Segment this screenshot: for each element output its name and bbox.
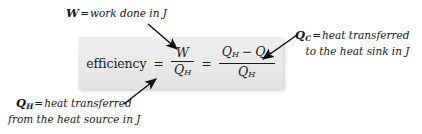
fraction-1-denominator: QH — [171, 62, 194, 80]
annotation-work: W=work done in J — [66, 7, 167, 21]
equation-panel: efficiency = W QH = QH−QC QH — [78, 37, 283, 89]
fraction-2-numerator-second-subscript: C — [266, 50, 272, 59]
fraction-1-denominator-subscript: H — [184, 68, 191, 77]
equation-left-term: efficiency — [86, 56, 146, 71]
annotation-heat-hot-line2: from the heat source in J — [8, 113, 140, 127]
fraction-2-numerator-operator: − — [239, 44, 255, 59]
fraction-2-denominator-subscript: H — [248, 70, 255, 79]
annotation-heat-hot-symbol: QH — [16, 96, 33, 110]
fraction-2-numerator-first-subscript: H — [232, 50, 239, 59]
annotation-work-line1: work done in J — [90, 7, 167, 19]
annotation-heat-cold-symbol: QC — [295, 28, 311, 42]
annotation-heat-hot: QH=heat transferred from the heat source… — [16, 97, 140, 127]
annotation-heat-cold-line2: to the heat sink in J — [295, 45, 410, 59]
fraction-qh-minus-qc-over-qh: QH−QC QH — [219, 45, 275, 82]
annotation-heat-cold-equals: = — [311, 29, 322, 41]
equation-equals-second: = — [199, 56, 213, 71]
fraction-2-numerator-first-symbol: Q — [222, 44, 232, 59]
annotation-heat-cold: QC=heat transferred to the heat sink in … — [295, 29, 410, 59]
equation-equals-first: = — [151, 56, 165, 71]
annotation-heat-hot-line1: heat transferred — [44, 97, 132, 109]
annotation-heat-cold-line1: heat transferred — [322, 29, 410, 41]
figure-canvas: W=work done in J QC=heat transferred to … — [0, 0, 422, 134]
fraction-2-denominator: QH — [235, 64, 258, 82]
fraction-2-numerator: QH−QC — [219, 45, 275, 63]
fraction-1-numerator: W — [173, 46, 192, 61]
fraction-1-denominator-symbol: Q — [174, 62, 184, 77]
efficiency-equation: efficiency = W QH = QH−QC QH — [78, 37, 283, 89]
fraction-1-numerator-symbol: W — [176, 45, 189, 60]
fraction-work-over-qh: W QH — [171, 46, 194, 80]
annotation-heat-hot-equals: = — [33, 97, 44, 109]
fraction-2-denominator-symbol: Q — [238, 64, 248, 79]
fraction-2-numerator-second-symbol: Q — [255, 44, 265, 59]
annotation-work-equals: = — [79, 7, 90, 19]
annotation-work-symbol: W — [66, 6, 79, 20]
